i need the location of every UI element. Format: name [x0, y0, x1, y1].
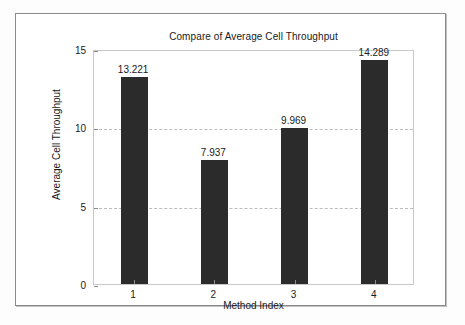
x-tick-label-3: 3 [274, 289, 314, 300]
figure-border: Compare of Average Cell Throughput Avera… [15, 13, 446, 306]
x-tick-mark-4 [375, 280, 376, 284]
y-tick-mark-10 [94, 129, 98, 130]
bar-value-label-4: 14.289 [344, 47, 404, 58]
y-tick-label-15: 15 [46, 45, 86, 56]
y-tick-label-10: 10 [46, 123, 86, 134]
y-tick-mark-5 [94, 208, 98, 209]
x-tick-mark-3 [295, 280, 296, 284]
x-tick-label-2: 2 [193, 289, 233, 300]
bar-value-label-3: 9.969 [264, 115, 324, 126]
chart-title: Compare of Average Cell Throughput [93, 31, 414, 42]
x-tick-mark-1 [134, 280, 135, 284]
figure-canvas: Compare of Average Cell Throughput Avera… [0, 0, 465, 325]
bar-value-label-2: 7.937 [183, 147, 243, 158]
bar-4[interactable] [361, 60, 388, 284]
x-tick-label-4: 4 [354, 289, 394, 300]
bar-1[interactable] [121, 77, 148, 284]
bar-value-label-1: 13.221 [103, 64, 163, 75]
plot-area [93, 50, 414, 285]
x-tick-mark-2 [214, 280, 215, 284]
y-tick-label-0: 0 [46, 280, 86, 291]
y-tick-mark-0 [94, 286, 98, 287]
x-axis-label: Method Index [93, 300, 414, 311]
y-axis-label: Average Cell Throughput [51, 45, 62, 245]
y-tick-mark-15 [94, 51, 98, 52]
bar-3[interactable] [281, 128, 308, 284]
y-tick-label-5: 5 [46, 201, 86, 212]
x-tick-label-1: 1 [113, 289, 153, 300]
bar-2[interactable] [201, 160, 228, 284]
